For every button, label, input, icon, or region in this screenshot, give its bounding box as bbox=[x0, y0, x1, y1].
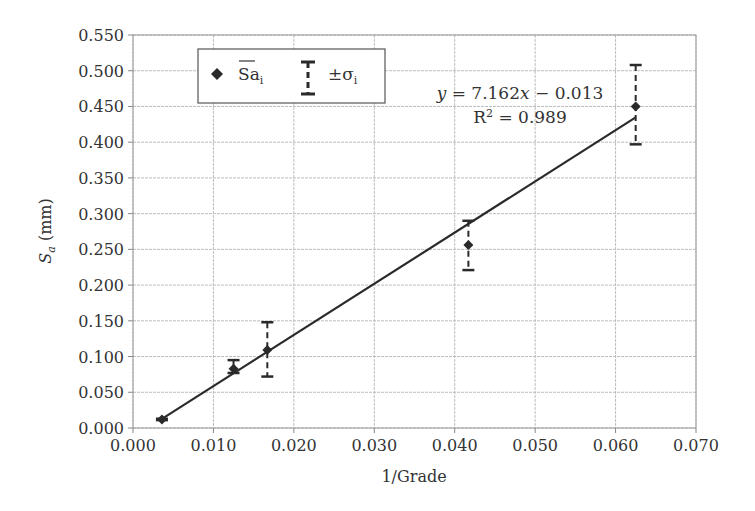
y-axis-label: Sa (mm) bbox=[36, 198, 58, 263]
y-tick-label: 0.300 bbox=[78, 205, 124, 224]
y-tick-label: 0.050 bbox=[78, 383, 124, 402]
y-tick-label: 0.100 bbox=[78, 348, 124, 367]
legend: Sai ±σi bbox=[198, 49, 385, 103]
x-tick-label: 0.050 bbox=[512, 436, 558, 455]
y-tick-label: 0.250 bbox=[78, 240, 124, 259]
y-tick-label: 0.400 bbox=[78, 133, 124, 152]
y-tick-label: 0.350 bbox=[78, 169, 124, 188]
diamond-marker-icon bbox=[631, 101, 641, 111]
x-axis-ticks: 0.0000.0100.0200.0300.0400.0500.0600.070 bbox=[110, 428, 719, 455]
x-tick-label: 0.020 bbox=[271, 436, 317, 455]
x-tick-label: 0.000 bbox=[110, 436, 156, 455]
y-tick-label: 0.200 bbox=[78, 276, 124, 295]
y-tick-label: 0.550 bbox=[78, 26, 124, 45]
legend-label-sigma: ±σi bbox=[328, 64, 358, 87]
x-tick-label: 0.070 bbox=[673, 436, 719, 455]
x-axis-label: 1/Grade bbox=[381, 467, 446, 486]
r-squared-label: R2 = 0.989 bbox=[473, 107, 567, 127]
error-bars bbox=[156, 65, 642, 420]
y-axis-ticks: 0.0000.0500.1000.1500.2000.2500.3000.350… bbox=[78, 26, 133, 438]
scatter-chart: 0.0000.0500.1000.1500.2000.2500.3000.350… bbox=[0, 0, 755, 511]
y-tick-label: 0.500 bbox=[78, 62, 124, 81]
x-tick-label: 0.060 bbox=[593, 436, 639, 455]
x-tick-label: 0.040 bbox=[432, 436, 478, 455]
x-tick-label: 0.030 bbox=[351, 436, 397, 455]
x-tick-label: 0.010 bbox=[191, 436, 237, 455]
y-tick-label: 0.450 bbox=[78, 97, 124, 116]
diamond-marker-icon bbox=[463, 240, 473, 250]
trendline-equation: y = 7.162x − 0.013 bbox=[436, 83, 604, 103]
y-tick-label: 0.150 bbox=[78, 312, 124, 331]
